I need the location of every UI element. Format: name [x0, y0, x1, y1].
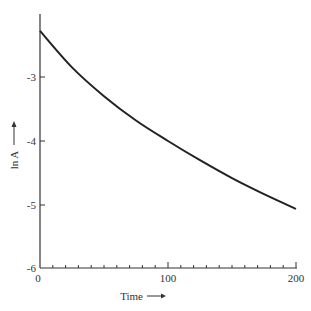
y-ticks	[40, 77, 45, 205]
y-tick-label: -4	[27, 135, 37, 147]
x-tick-label: 200	[288, 272, 305, 284]
data-line	[40, 31, 296, 209]
up-arrow-icon	[12, 121, 17, 145]
x-ticks	[53, 262, 296, 268]
x-tick-label: 100	[160, 272, 177, 284]
y-axis-label: ln A	[8, 151, 20, 170]
y-tick-label: -3	[27, 71, 37, 83]
right-arrow-icon	[147, 294, 166, 299]
x-tick-label: 0	[35, 272, 41, 284]
x-axis-label: Time	[120, 290, 143, 302]
chart: -3 -4 -5 -6 0 100 200 Time ln A	[0, 0, 311, 311]
y-tick-label: -5	[27, 199, 37, 211]
